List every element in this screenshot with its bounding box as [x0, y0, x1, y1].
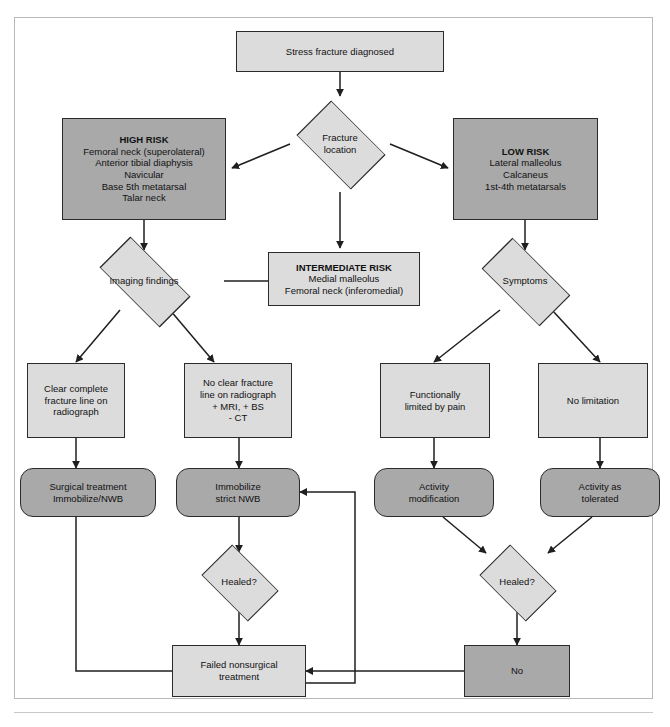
node-label: No	[465, 665, 569, 677]
node-activity-modification[interactable]: Activity modification	[374, 468, 494, 517]
node-stress-fracture-diagnosed[interactable]: Stress fracture diagnosed	[236, 31, 444, 72]
node-no-clear-fracture-line[interactable]: No clear fracture line on radiograph + M…	[184, 363, 292, 438]
edge-symptoms-to-functionally-limited	[434, 310, 500, 362]
node-healed-right[interactable]: Healed?	[454, 552, 580, 612]
node-label: Activity modification	[375, 481, 493, 504]
node-no-limitation[interactable]: No limitation	[538, 363, 648, 438]
node-surgical-treatment[interactable]: Surgical treatment Immobilize/NWB	[20, 468, 156, 517]
node-functionally-limited[interactable]: Functionally limited by pain	[380, 363, 490, 438]
edge-failed-to-immobilize	[300, 492, 355, 683]
node-fracture-location[interactable]: Fracture location	[265, 96, 415, 192]
node-label: No clear fracture line on radiograph + M…	[185, 377, 291, 423]
diamond-shape	[296, 100, 385, 189]
node-label: Surgical treatment Immobilize/NWB	[21, 481, 155, 504]
node-label: No limitation	[539, 395, 647, 407]
diamond-shape	[201, 544, 278, 621]
node-intermediate-risk[interactable]: INTERMEDIATE RISK Medial malleolus Femor…	[268, 252, 420, 306]
node-label: Activity as tolerated	[541, 481, 659, 504]
node-label: Clear complete fracture line on radiogra…	[28, 383, 124, 418]
diamond-shape	[479, 544, 556, 621]
node-healed-left[interactable]: Healed?	[176, 552, 302, 612]
flowchart-figure: Stress fracture diagnosed Fracture locat…	[0, 0, 670, 727]
edge-activity-mod-to-healed-right	[443, 517, 486, 553]
node-failed-nonsurgical-treatment[interactable]: Failed nonsurgical treatment	[172, 645, 306, 697]
edge-imaging-to-no-clear-line	[170, 310, 214, 362]
edge-symptoms-to-no-limitation	[552, 310, 600, 362]
node-label: LOW RISK Lateral malleolus Calcaneus 1st…	[454, 146, 597, 192]
node-clear-fracture-line[interactable]: Clear complete fracture line on radiogra…	[27, 363, 125, 438]
edge-imaging-to-clear-line	[76, 310, 120, 362]
node-low-risk[interactable]: LOW RISK Lateral malleolus Calcaneus 1st…	[453, 118, 598, 220]
node-label: HIGH RISK Femoral neck (superolateral) A…	[63, 134, 225, 204]
node-label: Immobilize strict NWB	[177, 481, 299, 504]
node-label: Functionally limited by pain	[381, 389, 489, 412]
caption-divider	[14, 712, 653, 713]
node-activity-as-tolerated[interactable]: Activity as tolerated	[540, 468, 660, 517]
node-immobilize-strict-nwb[interactable]: Immobilize strict NWB	[176, 468, 300, 517]
edge-failed-to-surgical	[76, 502, 172, 671]
edge-activity-tolerated-to-healed-right	[548, 517, 592, 553]
node-label: Failed nonsurgical treatment	[173, 659, 305, 682]
node-label: INTERMEDIATE RISK Medial malleolus Femor…	[269, 262, 419, 297]
node-symptoms[interactable]: Symptoms	[446, 250, 604, 312]
node-high-risk[interactable]: HIGH RISK Femoral neck (superolateral) A…	[62, 118, 226, 220]
node-label: Stress fracture diagnosed	[237, 46, 443, 58]
node-no-outcome[interactable]: No	[464, 645, 570, 697]
node-imaging-findings[interactable]: Imaging findings	[62, 250, 226, 312]
